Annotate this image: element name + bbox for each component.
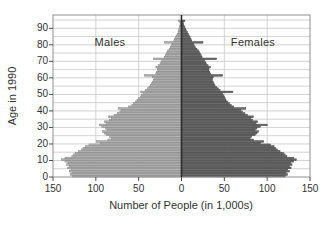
x-tick-label: 150 [302, 183, 319, 194]
y-tick-label: 70 [2, 55, 48, 66]
y-tick-label: 60 [2, 72, 48, 83]
y-tick-label: 80 [2, 39, 48, 50]
y-tick-label: 0 [2, 171, 48, 182]
x-axis-title: Number of People (in 1,000s) [109, 199, 253, 211]
y-tick-label: 30 [2, 121, 48, 132]
y-tick-label: 90 [2, 22, 48, 33]
x-tick-label: 0 [179, 183, 185, 194]
y-tick-label: 10 [2, 154, 48, 165]
y-tick-label: 20 [2, 138, 48, 149]
female-series-label: Females [231, 36, 275, 48]
x-tick-label: 50 [133, 183, 144, 194]
male-series-label: Males [95, 36, 126, 48]
y-tick-label: 50 [2, 88, 48, 99]
x-tick-label: 50 [219, 183, 230, 194]
y-tick-label: 40 [2, 105, 48, 116]
x-tick-label: 150 [45, 183, 62, 194]
population-pyramid-chart: Males Females Age in 1990 Number of Peop… [0, 0, 336, 225]
x-tick-label: 100 [87, 183, 104, 194]
x-tick-label: 100 [259, 183, 276, 194]
